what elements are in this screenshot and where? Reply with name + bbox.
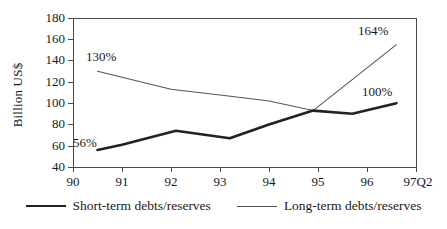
legend-swatch-short-term-icon bbox=[26, 205, 66, 207]
chart-container: Billion US$ 180 160 140 120 100 80 60 40… bbox=[0, 0, 447, 229]
legend-item-short-term: Short-term debts/reserves bbox=[26, 199, 211, 213]
annotation-short-start: 56% bbox=[73, 136, 97, 149]
annotation-short-end: 100% bbox=[362, 85, 392, 98]
annotation-long-end: 164% bbox=[358, 24, 388, 37]
legend-swatch-long-term-icon bbox=[237, 206, 277, 207]
legend-item-long-term: Long-term debts/reserves bbox=[237, 199, 422, 213]
annotation-long-start: 130% bbox=[86, 50, 116, 63]
chart-legend: Short-term debts/reserves Long-term debt… bbox=[0, 196, 447, 216]
short-term-line bbox=[98, 103, 397, 150]
legend-label-short-term: Short-term debts/reserves bbox=[73, 199, 211, 213]
long-term-line bbox=[98, 45, 397, 111]
legend-label-long-term: Long-term debts/reserves bbox=[284, 199, 422, 213]
